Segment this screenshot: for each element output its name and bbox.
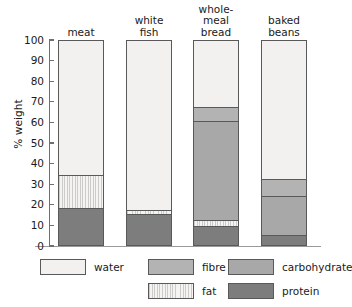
segment-fibre[interactable] — [262, 179, 306, 195]
bar-meat[interactable] — [58, 40, 104, 246]
category-label-line: meat — [48, 27, 114, 39]
category-label-line: white — [116, 15, 182, 27]
segment-protein[interactable] — [262, 235, 306, 245]
legend-label-protein: protein — [282, 285, 319, 297]
category-label-baked-beans: bakedbeans — [251, 15, 317, 38]
category-label-line: beans — [251, 27, 317, 39]
legend-swatch-water — [40, 259, 86, 275]
legend-item-fat[interactable]: fat — [148, 283, 216, 299]
category-label-whole-meal-bread: whole-mealbread — [183, 4, 249, 39]
segment-protein[interactable] — [194, 226, 238, 245]
legend-label-fat: fat — [202, 285, 216, 297]
segment-fibre[interactable] — [194, 107, 238, 121]
legend-label-carbohydrate: carbohydrate — [282, 261, 352, 273]
legend-label-fibre: fibre — [202, 261, 226, 273]
legend-swatch-protein — [228, 283, 274, 299]
legend-swatch-fat — [148, 283, 194, 299]
category-label-line: bread — [183, 27, 249, 39]
bar-baked-beans[interactable] — [261, 40, 307, 246]
segment-water[interactable] — [194, 40, 238, 107]
bar-white-fish[interactable] — [126, 40, 172, 246]
bar-whole-meal-bread[interactable] — [193, 40, 239, 246]
stacked-bar-chart: % weight 1009080706050403020100 meatwhit… — [0, 0, 321, 252]
segment-water[interactable] — [127, 40, 171, 210]
category-label-line: meal — [183, 15, 249, 27]
legend-item-carbohydrate[interactable]: carbohydrate — [228, 259, 352, 275]
segment-water[interactable] — [262, 40, 306, 179]
legend-item-protein[interactable]: protein — [228, 283, 319, 299]
legend-swatch-carbohydrate — [228, 259, 274, 275]
category-label-line: baked — [251, 15, 317, 27]
segment-protein[interactable] — [59, 208, 103, 245]
category-label-white-fish: whitefish — [116, 15, 182, 38]
segment-fat[interactable] — [59, 175, 103, 208]
legend-label-water: water — [94, 261, 124, 273]
plot-area — [0, 40, 321, 246]
segment-protein[interactable] — [127, 214, 171, 245]
category-label-line: fish — [116, 27, 182, 39]
legend-item-water[interactable]: water — [40, 259, 124, 275]
x-axis-baseline — [35, 246, 321, 247]
segment-carbohydrate[interactable] — [194, 121, 238, 220]
segment-water[interactable] — [59, 40, 103, 175]
chart-legend: waterfibrecarbohydratefatprotein — [0, 255, 321, 307]
legend-item-fibre[interactable]: fibre — [148, 259, 226, 275]
legend-swatch-fibre — [148, 259, 194, 275]
category-label-meat: meat — [48, 27, 114, 39]
segment-carbohydrate[interactable] — [262, 196, 306, 235]
segment-fat[interactable] — [194, 220, 238, 226]
segment-fat[interactable] — [127, 210, 171, 214]
